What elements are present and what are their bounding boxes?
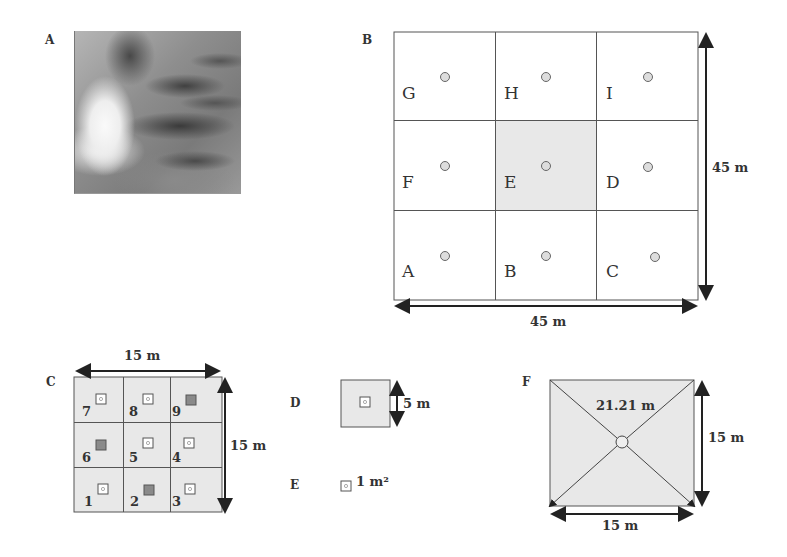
quadrat-number-1: 1 bbox=[84, 494, 93, 509]
quadrat-number-9: 9 bbox=[172, 404, 181, 419]
cell-label-e: E bbox=[504, 172, 516, 192]
panel-d-size-label: 5 m bbox=[403, 396, 430, 411]
cell-label-f: F bbox=[402, 172, 414, 192]
quadrat-number-4: 4 bbox=[172, 450, 181, 465]
panel-f-diagonal-label: 21.21 m bbox=[596, 398, 655, 413]
panel-c-grid bbox=[74, 371, 225, 512]
panel-b-height-label: 45 m bbox=[712, 160, 748, 175]
quadrat-number-3: 3 bbox=[172, 494, 181, 509]
cell-label-c: C bbox=[606, 261, 619, 281]
panel-b-width-label: 45 m bbox=[530, 314, 566, 329]
panel-c-label: C bbox=[46, 375, 56, 389]
panel-f-width-label: 15 m bbox=[602, 518, 638, 533]
panel-f-label: F bbox=[522, 375, 531, 389]
quadrat-number-8: 8 bbox=[129, 404, 138, 419]
panel-e-quadrat bbox=[341, 481, 351, 491]
quadrat-number-2: 2 bbox=[130, 494, 139, 509]
cell-label-b: B bbox=[504, 261, 517, 281]
panel-c-height-label: 15 m bbox=[230, 438, 266, 453]
cell-label-g: G bbox=[402, 83, 416, 103]
panel-b-label: B bbox=[362, 33, 372, 47]
panel-b-grid bbox=[394, 32, 706, 306]
panel-d-label: D bbox=[290, 396, 300, 410]
panel-e-size-label: 1 m² bbox=[356, 474, 389, 489]
quadrat-number-6: 6 bbox=[82, 450, 91, 465]
panel-d-plot bbox=[341, 380, 397, 427]
cell-label-h: H bbox=[504, 83, 519, 103]
cell-label-a: A bbox=[402, 261, 414, 281]
quadrat-number-7: 7 bbox=[82, 404, 91, 419]
cell-label-d: D bbox=[606, 172, 620, 192]
panel-e-label: E bbox=[290, 478, 299, 492]
cell-label-i: I bbox=[606, 83, 613, 103]
quadrat-number-5: 5 bbox=[129, 450, 138, 465]
diagram-graphics bbox=[0, 0, 787, 557]
panel-f-height-label: 15 m bbox=[708, 430, 744, 445]
panel-c-width-label: 15 m bbox=[124, 348, 160, 363]
